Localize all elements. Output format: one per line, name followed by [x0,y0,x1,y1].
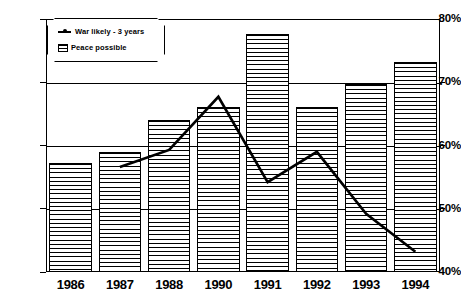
x-tick-label: 1988 [145,277,194,292]
legend-item-peace-possible: Peace possible [58,43,127,52]
x-tick-label: 1991 [243,277,292,292]
y-tick-mark-right [440,208,445,209]
y-tick-mark-right [440,145,445,146]
chart-legend: War likely - 3 years Peace possible [47,18,165,62]
line-marker-icon [58,28,71,36]
war-likely-polyline [120,97,416,252]
legend-box [47,18,165,62]
y-tick-mark-right [440,82,445,83]
hatched-swatch-icon [58,44,68,52]
x-tick-label: 1992 [292,277,341,292]
x-tick-label: 1986 [46,277,95,292]
legend-item-label: War likely - 3 years [75,27,144,36]
x-tick-label: 1987 [95,277,144,292]
chart-container: 40%50%60%70%80% 198619871988199019911992… [0,0,461,308]
x-tick-label: 1994 [391,277,440,292]
legend-item-label: Peace possible [71,43,127,52]
x-tick-label: 1990 [194,277,243,292]
x-tick-label: 1993 [342,277,391,292]
legend-item-war-likely: War likely - 3 years [58,27,144,36]
